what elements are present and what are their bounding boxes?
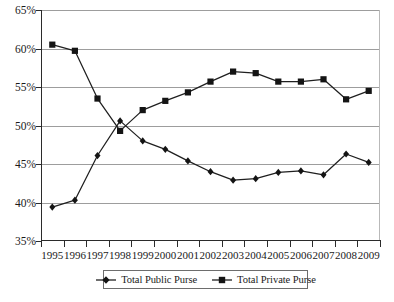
x-axis-tick <box>177 240 178 247</box>
diamond-marker-icon <box>95 275 117 285</box>
x-axis-tick <box>244 240 245 247</box>
y-axis-tick-label: 60% <box>0 43 36 55</box>
y-axis-tick-label: 55% <box>0 81 36 93</box>
x-axis-tick <box>199 240 200 247</box>
y-axis-tick-label: 35% <box>0 235 36 247</box>
chart-legend: Total Public Purse Total Private Purse <box>103 270 308 289</box>
x-axis-tick <box>154 240 155 247</box>
square-marker-icon <box>211 275 233 285</box>
x-axis-tick <box>357 240 358 247</box>
gridline <box>42 203 379 204</box>
x-axis-tick <box>312 240 313 247</box>
gridline <box>42 87 379 88</box>
y-axis: 35%40%45%50%55%60%65% <box>0 0 38 302</box>
x-axis-tick <box>222 240 223 247</box>
legend-label: Total Private Purse <box>237 274 316 285</box>
y-axis-tick-label: 65% <box>0 4 36 16</box>
legend-item-total-public-purse[interactable]: Total Public Purse <box>95 274 197 285</box>
x-axis-line <box>41 240 381 241</box>
x-axis-tick-label: 2009 <box>352 249 386 261</box>
x-axis-tick <box>109 240 110 247</box>
gridline <box>42 164 379 165</box>
caption-strip <box>0 296 394 302</box>
x-axis-tick <box>335 240 336 247</box>
x-axis-tick <box>380 240 381 247</box>
x-axis-tick <box>64 240 65 247</box>
y-axis-tick-label: 45% <box>0 158 36 170</box>
gridline <box>42 10 379 11</box>
x-axis-tick <box>267 240 268 247</box>
x-axis-tick <box>290 240 291 247</box>
x-axis-tick <box>41 240 42 247</box>
gridline <box>42 126 379 127</box>
y-axis-tick-label: 40% <box>0 197 36 209</box>
legend-item-total-private-purse[interactable]: Total Private Purse <box>211 274 316 285</box>
x-axis-tick <box>131 240 132 247</box>
gridline <box>42 49 379 50</box>
legend-label: Total Public Purse <box>121 274 197 285</box>
plot-area <box>41 10 380 241</box>
x-axis-tick <box>86 240 87 247</box>
y-axis-tick-label: 50% <box>0 120 36 132</box>
line-chart: 35%40%45%50%55%60%65% Total Public Purse… <box>0 0 394 302</box>
